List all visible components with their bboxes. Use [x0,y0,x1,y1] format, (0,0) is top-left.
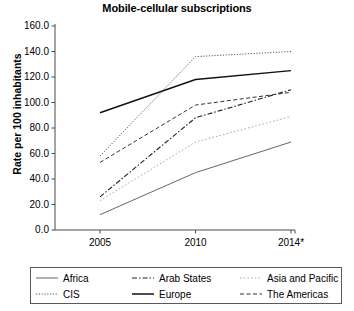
series-line-europe [100,71,291,113]
legend-swatch-line-icon [131,289,155,299]
series-line-cis [100,52,291,157]
legend-swatch-line-icon [239,273,263,283]
legend-item-africa[interactable]: Africa [35,273,131,284]
legend: AfricaArab StatesAsia and PacificCISEuro… [30,267,342,304]
legend-label: Europe [159,289,191,300]
legend-item-europe[interactable]: Europe [131,289,239,300]
legend-item-asia-and-pacific[interactable]: Asia and Pacific [239,273,339,284]
series-line-arab-states [100,90,291,197]
series-line-africa [100,142,291,215]
legend-label: Africa [63,273,89,284]
legend-swatch-line-icon [131,273,155,283]
legend-swatch-line-icon [35,273,59,283]
legend-label: Asia and Pacific [267,273,338,284]
chart-container: Mobile-cellular subscriptions Rate per 1… [0,0,354,311]
legend-swatch-line-icon [35,289,59,299]
plot-area [0,0,354,311]
legend-label: CIS [63,289,80,300]
legend-swatch-line-icon [239,289,263,299]
series-line-asia-and-pacific [100,117,291,201]
legend-item-cis[interactable]: CIS [35,289,131,300]
legend-label: Arab States [159,273,211,284]
legend-label: The Americas [267,289,328,300]
legend-item-the-americas[interactable]: The Americas [239,289,339,300]
legend-item-arab-states[interactable]: Arab States [131,273,239,284]
